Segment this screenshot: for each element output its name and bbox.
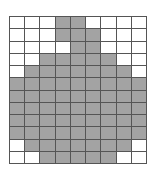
filled-cell: [86, 54, 100, 65]
filled-cell: [101, 66, 115, 77]
filled-cell: [117, 140, 131, 151]
filled-cell: [56, 152, 70, 163]
filled-cell: [86, 127, 100, 138]
empty-cell: [101, 42, 115, 53]
filled-cell: [56, 91, 70, 102]
empty-cell: [132, 29, 146, 40]
empty-cell: [10, 54, 24, 65]
empty-cell: [25, 29, 39, 40]
filled-cell: [117, 66, 131, 77]
empty-cell: [132, 54, 146, 65]
filled-cell: [40, 115, 54, 126]
filled-cell: [56, 66, 70, 77]
filled-cell: [101, 152, 115, 163]
filled-cell: [101, 140, 115, 151]
empty-cell: [25, 42, 39, 53]
empty-cell: [10, 29, 24, 40]
filled-cell: [40, 78, 54, 89]
filled-cell: [101, 127, 115, 138]
empty-cell: [132, 152, 146, 163]
filled-cell: [40, 91, 54, 102]
filled-cell: [25, 78, 39, 89]
filled-cell: [56, 17, 70, 28]
filled-cell: [10, 127, 24, 138]
empty-cell: [117, 152, 131, 163]
filled-cell: [40, 127, 54, 138]
filled-cell: [86, 91, 100, 102]
empty-cell: [10, 17, 24, 28]
filled-cell: [40, 54, 54, 65]
filled-cell: [56, 127, 70, 138]
filled-cell: [71, 66, 85, 77]
filled-cell: [10, 78, 24, 89]
filled-cell: [86, 78, 100, 89]
filled-cell: [86, 115, 100, 126]
empty-cell: [132, 42, 146, 53]
filled-cell: [117, 127, 131, 138]
filled-cell: [86, 66, 100, 77]
empty-cell: [117, 54, 131, 65]
filled-cell: [117, 115, 131, 126]
filled-cell: [117, 103, 131, 114]
filled-cell: [71, 140, 85, 151]
filled-cell: [40, 152, 54, 163]
filled-cell: [25, 91, 39, 102]
filled-cell: [40, 140, 54, 151]
empty-cell: [25, 152, 39, 163]
empty-cell: [132, 66, 146, 77]
filled-cell: [86, 152, 100, 163]
filled-cell: [71, 29, 85, 40]
filled-cell: [71, 127, 85, 138]
filled-cell: [56, 103, 70, 114]
empty-cell: [117, 42, 131, 53]
filled-cell: [25, 140, 39, 151]
filled-cell: [117, 91, 131, 102]
empty-cell: [56, 42, 70, 53]
filled-cell: [71, 78, 85, 89]
empty-cell: [10, 42, 24, 53]
empty-cell: [40, 17, 54, 28]
empty-cell: [132, 17, 146, 28]
filled-cell: [132, 103, 146, 114]
filled-cell: [56, 140, 70, 151]
filled-cell: [71, 54, 85, 65]
filled-cell: [71, 103, 85, 114]
filled-cell: [101, 54, 115, 65]
empty-cell: [10, 66, 24, 77]
filled-cell: [25, 103, 39, 114]
filled-cell: [86, 29, 100, 40]
filled-cell: [40, 66, 54, 77]
filled-cell: [101, 115, 115, 126]
empty-cell: [101, 17, 115, 28]
filled-cell: [71, 115, 85, 126]
empty-cell: [10, 152, 24, 163]
filled-cell: [117, 78, 131, 89]
filled-cell: [40, 103, 54, 114]
empty-cell: [86, 17, 100, 28]
filled-cell: [86, 140, 100, 151]
empty-cell: [117, 17, 131, 28]
filled-cell: [56, 54, 70, 65]
filled-cell: [25, 127, 39, 138]
filled-cell: [132, 91, 146, 102]
filled-cell: [56, 115, 70, 126]
filled-cell: [25, 66, 39, 77]
filled-cell: [10, 91, 24, 102]
filled-cell: [101, 91, 115, 102]
filled-cell: [71, 17, 85, 28]
filled-cell: [132, 127, 146, 138]
empty-cell: [117, 29, 131, 40]
empty-cell: [132, 140, 146, 151]
empty-cell: [40, 29, 54, 40]
filled-cell: [71, 42, 85, 53]
filled-cell: [56, 78, 70, 89]
filled-cell: [86, 42, 100, 53]
filled-cell: [71, 91, 85, 102]
empty-cell: [101, 29, 115, 40]
filled-cell: [56, 29, 70, 40]
filled-cell: [10, 115, 24, 126]
empty-cell: [25, 17, 39, 28]
empty-cell: [25, 54, 39, 65]
empty-cell: [10, 140, 24, 151]
filled-cell: [101, 78, 115, 89]
